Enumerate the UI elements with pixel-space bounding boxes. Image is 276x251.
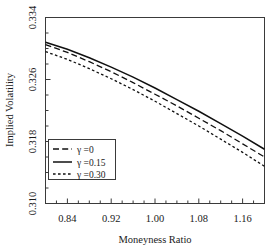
chart-canvas: 0.84 0.92 1.00 1.08 1.16 0.334 0.326 0.3… [0, 0, 276, 251]
y-tick-label: 0.326 [27, 68, 38, 92]
legend-label-gamma-030: γ =0.30 [76, 170, 106, 180]
x-tick-label: 1.00 [146, 213, 164, 224]
x-tick-label: 0.92 [102, 213, 120, 224]
y-axis-title: Implied Volatility [4, 72, 15, 147]
legend-label-gamma-0: γ =0 [76, 145, 94, 155]
y-tick-label: 0.310 [27, 192, 38, 216]
series-line-gamma-015 [46, 42, 265, 149]
implied-volatility-chart: 0.84 0.92 1.00 1.08 1.16 0.334 0.326 0.3… [0, 0, 276, 251]
y-tick-label: 0.318 [27, 130, 38, 154]
legend-label-gamma-015: γ =0.15 [76, 158, 106, 168]
legend: γ =0 γ =0.15 γ =0.30 [49, 140, 116, 180]
x-tick-label: 0.84 [58, 213, 77, 224]
x-axis-ticks [46, 199, 265, 204]
x-tick-label: 1.08 [190, 213, 208, 224]
x-axis-title: Moneyness Ratio [118, 234, 191, 245]
x-tick-label: 1.16 [233, 213, 251, 224]
y-tick-label: 0.334 [27, 5, 38, 29]
